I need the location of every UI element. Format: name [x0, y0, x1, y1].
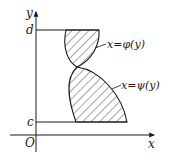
lower-bound-label: c	[27, 115, 34, 129]
lower-hatched-region	[69, 67, 127, 122]
phi-curve-label: x=φ(y)	[107, 38, 145, 51]
upper-bound-label: d	[26, 23, 34, 37]
integration-region-diagram: y x O d c x=φ(y) x=ψ(y)	[0, 0, 169, 161]
psi-leader-line	[112, 85, 121, 89]
upper-hatched-region	[65, 30, 99, 67]
x-axis-label: x	[148, 137, 155, 151]
origin-label: O	[25, 136, 35, 150]
y-axis-label: y	[25, 6, 33, 20]
psi-curve-label: x=ψ(y)	[121, 79, 160, 92]
